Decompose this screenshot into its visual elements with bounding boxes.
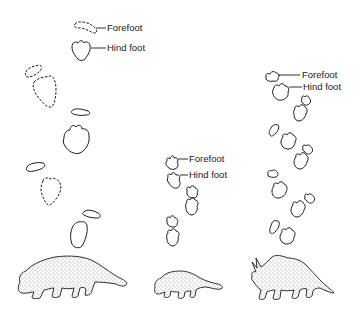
hind-foot-label: Hind foot	[189, 170, 227, 180]
hind-foot-print	[272, 182, 287, 198]
forefoot-label: Forefoot	[189, 154, 224, 164]
forefoot-print	[301, 96, 310, 105]
trackway-3-prints	[266, 72, 315, 244]
forefoot-print	[270, 221, 280, 234]
hind-foot-print	[167, 229, 179, 246]
hind-foot-print	[167, 173, 180, 188]
hind-foot-print	[273, 84, 289, 100]
hind-foot-print	[186, 198, 198, 215]
forefoot-print	[83, 210, 101, 218]
forefoot-label: Forefoot	[302, 70, 337, 80]
forefoot-print	[305, 194, 315, 203]
forefoot-print	[167, 216, 178, 227]
hind-foot-label: Hind foot	[303, 82, 341, 92]
hind-foot-print	[71, 222, 88, 248]
trackway-1-prints	[25, 22, 106, 248]
forefoot-print	[266, 72, 279, 82]
hind-foot-label: Hind foot	[107, 43, 145, 53]
forefoot-print	[74, 22, 96, 33]
forefoot-print	[166, 156, 178, 170]
forefoot-print	[26, 163, 44, 172]
trackway-illustration	[0, 0, 361, 314]
hind-foot-print	[280, 228, 295, 244]
hind-foot-print	[41, 178, 61, 205]
ankylosaur-large-silhouette	[18, 256, 127, 299]
ankylosaur-small-silhouette	[155, 271, 223, 299]
hind-foot-print	[291, 201, 305, 217]
forefoot-print	[269, 125, 279, 136]
trackway-figure: Forefoot Hind foot Forefoot Hind foot Fo…	[0, 0, 361, 314]
ceratopsian-silhouette	[252, 255, 334, 299]
hind-foot-print	[72, 41, 90, 61]
hind-foot-print	[281, 133, 296, 149]
forefoot-print	[25, 65, 41, 77]
forefoot-print	[187, 186, 198, 198]
forefoot-print	[72, 109, 90, 116]
hind-foot-print	[294, 153, 308, 169]
hind-foot-print	[33, 76, 56, 107]
forefoot-label: Forefoot	[107, 23, 142, 33]
hind-foot-print	[63, 125, 89, 153]
forefoot-print	[268, 170, 278, 178]
hind-foot-print	[294, 105, 308, 121]
